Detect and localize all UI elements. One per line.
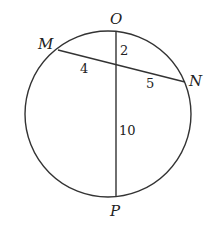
point-label-n: N bbox=[188, 72, 203, 90]
circle bbox=[25, 31, 191, 197]
point-label-m: M bbox=[37, 35, 54, 53]
point-label-p: P bbox=[109, 202, 121, 220]
segment-label-ox: 2 bbox=[120, 43, 128, 58]
point-label-o: O bbox=[110, 10, 122, 28]
segment-label-mx: 4 bbox=[80, 61, 88, 76]
segment-label-xn: 5 bbox=[146, 76, 154, 91]
chord-diagram: O M N P 2 4 5 10 bbox=[0, 0, 220, 232]
segment-label-xp: 10 bbox=[119, 123, 136, 138]
